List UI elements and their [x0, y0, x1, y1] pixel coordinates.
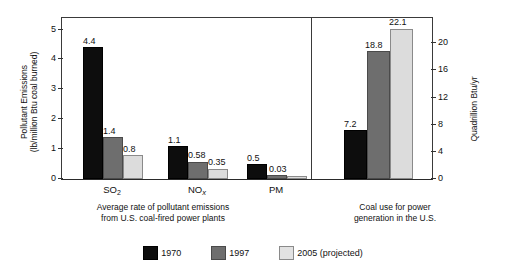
y-tick-right-12 [431, 97, 436, 98]
y-axis-label-left: Pollutant Emissions (lb/million Btu coal… [19, 32, 39, 172]
bar-label-nox-1997: 0.58 [188, 151, 206, 160]
y-tick-left-1 [58, 148, 63, 149]
bar-nox-2005 [208, 169, 228, 180]
bar-label-so2-2005: 0.8 [123, 145, 136, 154]
plot-area: 0 1 2 3 4 5 0 4 8 12 16 20 4.4 1.4 0.8 1… [61, 17, 433, 180]
caption-left-line2: from U.S. coal-fired power plants [101, 213, 225, 223]
y-tick-left-0 [58, 178, 63, 179]
y-tick-left-2 [58, 118, 63, 119]
caption-left-line1: Average rate of pollutant emissions [97, 202, 230, 212]
x-category-label-pm: PM [246, 185, 306, 195]
y-ticklabel-right-8: 8 [438, 120, 443, 129]
y-ticklabel-right-20: 20 [438, 38, 448, 47]
y-ticklabel-left-5: 5 [51, 25, 56, 34]
bar-label-pm-1997: 0.03 [269, 165, 287, 174]
y-ticklabel-right-12: 12 [438, 93, 448, 102]
bar-label-coaluse-1970: 7.2 [344, 120, 357, 129]
caption-left-panel: Average rate of pollutant emissions from… [48, 202, 278, 224]
y-tick-right-8 [431, 124, 436, 125]
y-tick-right-16 [431, 69, 436, 70]
bar-so2-2005 [123, 155, 143, 179]
chart-legend: 1970 1997 2005 (projected) [0, 246, 506, 260]
bar-so2-1970 [83, 47, 103, 179]
y-ticklabel-left-2: 2 [51, 114, 56, 123]
y-ticklabel-left-1: 1 [51, 144, 56, 153]
legend-swatch-1997-icon [211, 246, 226, 260]
y-tick-right-0 [431, 178, 436, 179]
legend-label-1970: 1970 [161, 248, 181, 258]
caption-right-panel: Coal use for power generation in the U.S… [320, 202, 470, 224]
caption-right-line1: Coal use for power [359, 202, 430, 212]
legend-item-1997: 1997 [211, 246, 249, 260]
bar-label-coaluse-2005: 22.1 [389, 18, 407, 27]
x-category-label-so2: SO2 [82, 185, 142, 196]
y-ticklabel-left-4: 4 [51, 54, 56, 63]
y-axis-label-right: Quadrillion Btu/yr [469, 39, 479, 179]
legend-swatch-1970-icon [143, 246, 158, 260]
bar-pm-1970 [247, 164, 267, 179]
y-ticklabel-right-16: 16 [438, 65, 448, 74]
panel-divider [311, 18, 312, 179]
bar-label-nox-1970: 1.1 [168, 136, 181, 145]
y-tick-left-4 [58, 58, 63, 59]
legend-swatch-2005-icon [279, 246, 294, 260]
y-ticklabel-right-0: 0 [438, 174, 443, 183]
bar-label-pm-1970: 0.5 [247, 154, 260, 163]
y-tick-right-4 [431, 151, 436, 152]
bar-coaluse-2005 [390, 29, 413, 179]
y-tick-right-20 [431, 42, 436, 43]
y-axis-label-left-line1: Pollutant Emissions [19, 65, 29, 139]
bar-coaluse-1997 [367, 51, 390, 179]
x-category-label-nox-text: NO [188, 184, 202, 195]
caption-right-line2: generation in the U.S. [354, 213, 436, 223]
x-category-label-so2-text: SO [103, 184, 117, 195]
legend-item-2005: 2005 (projected) [279, 246, 363, 260]
legend-label-1997: 1997 [229, 248, 249, 258]
bar-label-nox-2005: 0.35 [208, 158, 226, 167]
y-ticklabel-left-3: 3 [51, 84, 56, 93]
x-category-label-nox: NOx [167, 185, 227, 196]
bar-label-so2-1997: 1.4 [103, 127, 116, 136]
bar-nox-1970 [168, 146, 188, 179]
y-ticklabel-right-4: 4 [438, 147, 443, 156]
legend-label-2005: 2005 (projected) [297, 248, 363, 258]
bar-coaluse-1970 [344, 130, 367, 179]
bar-label-coaluse-1997: 18.8 [365, 41, 383, 50]
chart-figure: Pollutant Emissions (lb/million Btu coal… [0, 0, 506, 273]
bar-pm-1997 [267, 175, 287, 179]
y-tick-left-3 [58, 88, 63, 89]
legend-item-1970: 1970 [143, 246, 181, 260]
bar-pm-2005 [287, 176, 307, 179]
bar-nox-1997 [188, 162, 208, 179]
y-ticklabel-left-0: 0 [51, 174, 56, 183]
bar-so2-1997 [103, 137, 123, 179]
y-tick-left-5 [58, 29, 63, 30]
y-axis-label-left-line2: (lb/million Btu coal burned) [29, 52, 39, 153]
bar-label-so2-1970: 4.4 [83, 37, 96, 46]
